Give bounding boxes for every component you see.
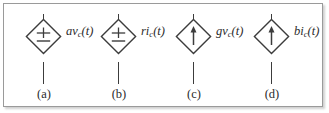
lead-wire-bottom-b bbox=[118, 62, 119, 84]
figure-border: avc(t) (a) ric(t bbox=[3, 3, 323, 107]
lead-wire-bottom-c bbox=[193, 62, 194, 84]
source-label-c-tail: (t) bbox=[232, 24, 244, 38]
diamond-outline-b bbox=[100, 18, 137, 55]
source-cell-a: avc(t) (a) bbox=[16, 12, 92, 104]
source-label-b-tail: (t) bbox=[153, 24, 165, 38]
source-label-a-main: av bbox=[66, 24, 78, 38]
diamond-outline-d bbox=[253, 18, 290, 55]
source-label-d: bic(t) bbox=[294, 25, 319, 39]
caption-c: (c) bbox=[166, 88, 222, 101]
source-cell-c: gvc(t) (c) bbox=[166, 12, 242, 104]
source-cell-b: ric(t) (b) bbox=[91, 12, 167, 104]
source-label-a: avc(t) bbox=[66, 25, 93, 39]
source-label-d-tail: (t) bbox=[308, 24, 320, 38]
source-label-c: gvc(t) bbox=[216, 25, 243, 39]
caption-d: (d) bbox=[244, 88, 300, 101]
lead-wire-bottom-d bbox=[271, 62, 272, 84]
source-symbol-d bbox=[244, 12, 300, 86]
diamond-outline-a bbox=[25, 18, 62, 55]
lead-wire-bottom-a bbox=[43, 62, 44, 84]
source-symbol-c bbox=[166, 12, 222, 86]
caption-a: (a) bbox=[16, 88, 72, 101]
source-symbol-a bbox=[16, 12, 72, 86]
figure-frame: avc(t) (a) ric(t bbox=[0, 0, 329, 113]
source-cell-d: bic(t) (d) bbox=[244, 12, 320, 104]
source-symbol-b bbox=[91, 12, 147, 86]
source-label-b: ric(t) bbox=[141, 25, 165, 39]
source-label-c-main: gv bbox=[216, 24, 228, 38]
caption-b: (b) bbox=[91, 88, 147, 101]
diamond-outline-c bbox=[175, 18, 212, 55]
source-label-d-main: bi bbox=[294, 24, 304, 38]
